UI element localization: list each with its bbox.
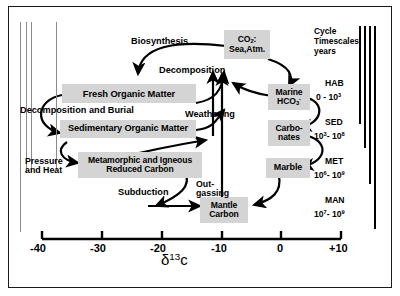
diagram-stage: CO2:Sea,Atm. Fresh Organic Matter Sedime… xyxy=(0,0,400,296)
label-pressure-and-heat-line2: and Heat xyxy=(25,165,62,175)
box-mantle-carbon[interactable]: MantleCarbon xyxy=(200,197,248,223)
timescale-name-met: MET xyxy=(325,156,343,166)
box-metamorphic-reduced-carbon-label: Metamorphic and IgneousReduced Carbon xyxy=(88,156,192,174)
box-co2[interactable]: CO2:Sea,Atm. xyxy=(224,30,270,59)
range-line-left-1 xyxy=(20,22,21,232)
label-pressure-and-heat: Pressure and Heat xyxy=(25,157,63,175)
range-line-left-2 xyxy=(26,22,27,172)
axis-tick-label--30: -30 xyxy=(90,242,106,254)
timescales-header-line2: Timescales, xyxy=(314,36,361,46)
timescale-name-hab: HAB xyxy=(325,78,344,88)
timescale-bar-man xyxy=(374,26,376,229)
box-sedimentary-organic-matter[interactable]: Sedimentary Organic Matter xyxy=(60,120,196,138)
label-biosynthesis: Biosynthesis xyxy=(131,37,188,47)
timescales-header: Cycle Timescales, years xyxy=(314,27,361,57)
axis-tick-label-0: 0 xyxy=(277,242,283,254)
axis-tick-label--10: -10 xyxy=(211,242,227,254)
axis-title: δ13c xyxy=(161,251,188,268)
label-decomposition-and-burial: Decomposition and Burial xyxy=(20,106,134,116)
timescale-name-sed: SED xyxy=(325,117,343,127)
timescale-bar-sed xyxy=(364,26,366,148)
label-subduction: Subduction xyxy=(118,188,169,198)
box-co2-label: CO2:Sea,Atm. xyxy=(229,35,265,53)
box-marble-label: Marble xyxy=(274,163,302,172)
box-marine-hco3[interactable]: MarineHCO3- xyxy=(268,84,310,110)
box-carbonates-label: Carbo-nates xyxy=(275,124,302,142)
timescale-range-met: 106- 109 xyxy=(314,170,345,180)
box-sedimentary-organic-matter-label: Sedimentary Organic Matter xyxy=(68,124,188,134)
timescale-bar-met xyxy=(369,26,371,184)
range-line-left-4 xyxy=(56,22,57,170)
label-weathering: Weathering xyxy=(185,110,235,120)
box-metamorphic-reduced-carbon[interactable]: Metamorphic and IgneousReduced Carbon xyxy=(78,152,202,178)
box-mantle-carbon-label: MantleCarbon xyxy=(209,201,238,219)
timescales-header-line3: years xyxy=(314,46,336,56)
box-fresh-organic-matter[interactable]: Fresh Organic Matter xyxy=(62,84,196,103)
box-carbonates[interactable]: Carbo-nates xyxy=(268,120,310,146)
label-decomposition: Decomposition xyxy=(159,66,225,76)
label-outgassing: Out- gassing xyxy=(196,180,229,198)
axis-tick-label--40: -40 xyxy=(30,242,46,254)
timescale-range-hab: 0 - 103 xyxy=(316,92,341,102)
timescale-range-man: 107- 109 xyxy=(314,209,345,219)
box-marble[interactable]: Marble xyxy=(266,158,310,178)
timescale-name-man: MAN xyxy=(325,195,345,205)
axis-tick-label-+10: +10 xyxy=(329,242,348,254)
box-marine-hco3-label: MarineHCO3- xyxy=(275,88,302,106)
timescales-header-line1: Cycle xyxy=(314,26,336,36)
box-fresh-organic-matter-label: Fresh Organic Matter xyxy=(83,89,175,99)
label-outgassing-line2: gassing xyxy=(196,188,229,198)
figure-root: CO2:Sea,Atm. Fresh Organic Matter Sedime… xyxy=(0,0,400,296)
timescale-range-sed: 103- 108 xyxy=(314,131,345,141)
range-line-left-3 xyxy=(31,22,32,172)
